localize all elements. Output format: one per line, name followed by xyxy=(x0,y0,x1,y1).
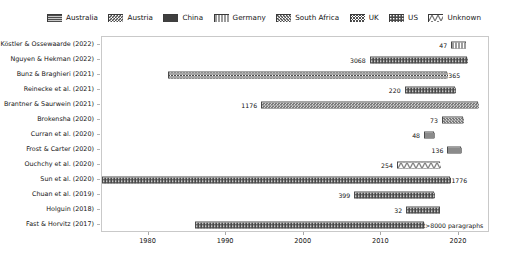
legend-swatch-dense-horizontal-icon xyxy=(47,14,62,22)
y-axis-tick-label: Holguin (2018) xyxy=(46,206,94,213)
bar-austria[interactable] xyxy=(261,101,478,108)
legend-item-label: UK xyxy=(369,14,379,22)
bar-germany[interactable] xyxy=(405,86,455,93)
plot-frame: 47306836522011767348136254177639932>8000… xyxy=(101,36,489,232)
bar-value-label: 1776 xyxy=(451,177,467,184)
legend-item-china[interactable]: China xyxy=(163,14,203,22)
legend-swatch-zigzag-icon xyxy=(428,14,443,22)
legend-swatch-solid-dark-icon xyxy=(163,14,178,22)
bar-unknown[interactable] xyxy=(370,56,467,63)
legend-item-label: China xyxy=(182,14,203,22)
y-axis-tick-mark xyxy=(97,44,100,45)
bar-value-label: >8000 paragraphs xyxy=(425,222,483,229)
legend-swatch-diagonal-back-icon xyxy=(108,14,123,22)
legend-item-unknown[interactable]: Unknown xyxy=(428,14,481,22)
x-axis-tick-label: 2010 xyxy=(372,237,389,245)
legend-item-uk[interactable]: UK xyxy=(350,14,379,22)
y-axis-tick-mark xyxy=(97,134,100,135)
y-axis-tick-label: Köstler & Ossewaarde (2022) xyxy=(1,40,94,47)
bar-value-label: 47 xyxy=(439,41,447,48)
y-axis-tick-mark xyxy=(97,209,100,210)
legend-swatch-vertical-lines-icon xyxy=(214,14,229,22)
y-axis-tick-mark xyxy=(97,59,100,60)
legend-swatch-cross-hatch-icon xyxy=(350,14,365,22)
bar-value-label: 48 xyxy=(412,132,420,139)
y-axis-tick-mark xyxy=(97,119,100,120)
x-axis-tick-label: 2020 xyxy=(450,237,467,245)
bar-value-label: 3068 xyxy=(350,56,366,63)
bar-value-label: 399 xyxy=(338,192,350,199)
y-axis-tick-label: Curran et al. (2020) xyxy=(31,131,94,138)
x-axis-tick-mark xyxy=(458,232,459,235)
y-axis-tick-mark xyxy=(97,149,100,150)
y-axis-tick-mark xyxy=(97,194,100,195)
legend-item-germany[interactable]: Germany xyxy=(214,14,266,22)
y-axis-tick-mark xyxy=(97,104,100,105)
x-axis-tick-mark xyxy=(148,232,149,235)
y-axis-tick-label: Chuan et al. (2019) xyxy=(32,191,94,198)
bar-germany[interactable] xyxy=(451,41,466,48)
y-axis-tick-mark xyxy=(97,74,100,75)
plot-area: 47306836522011767348136254177639932>8000… xyxy=(102,37,488,231)
bar-value-label: 32 xyxy=(394,207,402,214)
bar-value-label: 73 xyxy=(430,116,438,123)
y-axis-tick-label: Brantner & Saurwein (2021) xyxy=(4,100,94,107)
y-axis-tick-label: Ouchchy et al. (2020) xyxy=(25,161,95,168)
bar-us[interactable] xyxy=(354,192,434,199)
legend-item-australia[interactable]: Australia xyxy=(47,14,98,22)
x-axis-tick-mark xyxy=(303,232,304,235)
bar-value-label: 1176 xyxy=(241,101,257,108)
legend-item-austria[interactable]: Austria xyxy=(108,14,153,22)
legend-item-south-africa[interactable]: South Africa xyxy=(276,14,339,22)
bar-value-label: 365 xyxy=(448,71,460,78)
legend-item-label: Austria xyxy=(127,14,153,22)
legend-item-label: Germany xyxy=(233,14,266,22)
y-axis-tick-label: Sun et al. (2020) xyxy=(40,176,94,183)
y-axis-tick-label: Reinecke et al. (2021) xyxy=(24,85,94,92)
bar-us[interactable] xyxy=(195,222,424,229)
y-axis-tick-label: Fast & Horvitz (2017) xyxy=(26,221,94,228)
y-axis-tick-mark xyxy=(97,224,100,225)
bar-australia[interactable] xyxy=(447,147,461,154)
y-axis-tick-mark xyxy=(97,179,100,180)
legend-item-us[interactable]: US xyxy=(389,14,418,22)
bar-unknown[interactable] xyxy=(397,162,440,169)
chart-legend: AustraliaAustriaChinaGermanySouth Africa… xyxy=(47,11,481,25)
y-axis-tick-label: Nguyen & Hekman (2022) xyxy=(10,55,94,62)
x-axis-tick-label: 1980 xyxy=(139,237,156,245)
study-timeline-chart: AustraliaAustriaChinaGermanySouth Africa… xyxy=(0,0,513,259)
bar-south-africa[interactable] xyxy=(442,116,463,123)
legend-swatch-diagonal-fwd-icon xyxy=(276,14,291,22)
y-axis-tick-label: Frost & Carter (2020) xyxy=(26,146,94,153)
legend-item-label: Australia xyxy=(66,14,98,22)
bar-us[interactable] xyxy=(406,207,439,214)
x-axis-tick-label: 1990 xyxy=(217,237,234,245)
x-axis: 19801990200020102020 xyxy=(101,232,489,254)
legend-swatch-dense-dotted-icon xyxy=(389,14,404,22)
bar-uk[interactable] xyxy=(168,71,447,78)
bar-value-label: 254 xyxy=(381,162,393,169)
legend-item-label: South Africa xyxy=(295,14,339,22)
y-axis-tick-mark xyxy=(97,164,100,165)
bar-value-label: 136 xyxy=(432,147,444,154)
y-axis-tick-label: Brokensha (2020) xyxy=(37,115,94,122)
bar-china[interactable] xyxy=(102,177,450,184)
y-axis-tick-label: Bunz & Braghieri (2021) xyxy=(17,70,94,77)
x-axis-tick-mark xyxy=(380,232,381,235)
y-axis-labels: Köstler & Ossewaarde (2022)Nguyen & Hekm… xyxy=(0,36,98,232)
bar-value-label: 220 xyxy=(389,86,401,93)
legend-item-label: US xyxy=(408,14,418,22)
bar-australia[interactable] xyxy=(424,132,434,139)
x-axis-tick-label: 2000 xyxy=(294,237,311,245)
x-axis-tick-mark xyxy=(225,232,226,235)
y-axis-tick-mark xyxy=(97,89,100,90)
legend-item-label: Unknown xyxy=(447,14,481,22)
